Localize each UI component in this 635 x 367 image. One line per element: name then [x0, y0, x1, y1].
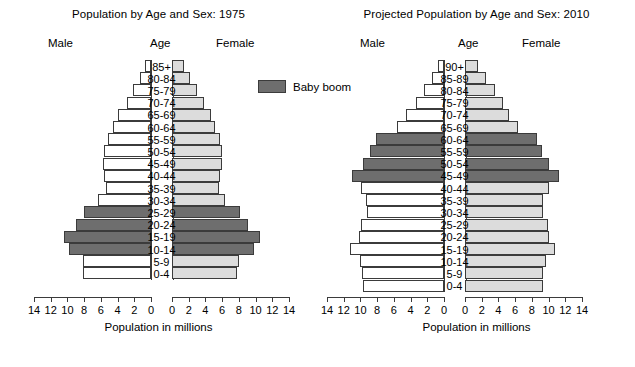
tick-male-0-10	[67, 297, 68, 302]
age-label-50-54: 50-54	[141, 146, 182, 158]
ticklabel-female-1-4: 4	[495, 304, 501, 316]
bar-female-20-24	[172, 219, 248, 231]
ticklabel-male-0-12: 12	[45, 304, 57, 316]
tick-female-0-4	[205, 297, 206, 302]
bar-female-10-14	[172, 243, 254, 255]
bar-male-40-44	[361, 182, 444, 194]
heading-female-2010: Female	[522, 37, 560, 49]
age-label-30-34: 30-34	[141, 195, 182, 207]
ticklabel-female-1-6: 6	[512, 304, 518, 316]
bar-male-35-39	[366, 194, 444, 206]
bar-male-15-19	[350, 243, 444, 255]
age-label-30-34: 30-34	[434, 207, 475, 219]
ticklabel-female-0-4: 4	[202, 304, 208, 316]
bar-male-10-14	[69, 243, 151, 255]
ticklabel-female-0-0: 0	[169, 304, 175, 316]
ticklabel-male-1-10: 10	[354, 304, 366, 316]
age-label-55-59: 55-59	[434, 146, 475, 158]
age-label-75-79: 75-79	[434, 97, 475, 109]
age-label-85plus: 85+	[141, 61, 182, 73]
ticklabel-male-0-6: 6	[98, 304, 104, 316]
tick-male-1-6	[394, 297, 395, 302]
tick-female-0-12	[272, 297, 273, 302]
age-label-25-29: 25-29	[141, 207, 182, 219]
tick-female-1-4	[498, 297, 499, 302]
ticklabel-female-1-8: 8	[529, 304, 535, 316]
bar-male-25-29	[361, 219, 445, 231]
bar-male-30-34	[367, 206, 444, 218]
tick-male-0-12	[51, 297, 52, 302]
age-label-50-54: 50-54	[434, 158, 475, 170]
chart-title-2010: Projected Population by Age and Sex: 201…	[318, 8, 635, 20]
tick-male-0-8	[84, 297, 85, 302]
ticklabel-male-1-8: 8	[374, 304, 380, 316]
tick-female-0-14	[289, 297, 290, 302]
bar-male-20-24	[76, 219, 151, 231]
heading-female-1975: Female	[216, 37, 254, 49]
ticklabel-male-0-0: 0	[148, 304, 154, 316]
age-label-60-64: 60-64	[141, 122, 182, 134]
ticklabel-female-1-12: 12	[559, 304, 571, 316]
bar-female-0-4	[465, 280, 543, 292]
ticklabel-male-1-12: 12	[338, 304, 350, 316]
age-label-80-84: 80-84	[434, 85, 475, 97]
ticklabel-female-1-2: 2	[479, 304, 485, 316]
bar-male-20-24	[359, 231, 444, 243]
age-label-20-24: 20-24	[141, 219, 182, 231]
bar-male-5-9	[362, 267, 444, 279]
age-label-60-64: 60-64	[434, 134, 475, 146]
bar-female-10-14	[465, 255, 546, 267]
age-label-75-79: 75-79	[141, 85, 182, 97]
bar-female-55-59	[465, 145, 542, 157]
bar-male-45-49	[352, 170, 444, 182]
age-label-80-84: 80-84	[141, 73, 182, 85]
tick-female-1-12	[565, 297, 566, 302]
tick-male-1-4	[411, 297, 412, 302]
heading-male-2010: Male	[360, 37, 385, 49]
tick-female-1-10	[549, 297, 550, 302]
baby-boom-swatch	[258, 80, 286, 93]
column-headings-2010: Male Age Female	[318, 37, 635, 53]
tick-male-0-14	[34, 297, 35, 302]
tick-male-1-14	[327, 297, 328, 302]
tick-male-0-2	[134, 297, 135, 302]
bar-male-10-14	[360, 255, 444, 267]
age-label-15-19: 15-19	[141, 231, 182, 243]
tick-male-0-6	[101, 297, 102, 302]
bar-male-50-54	[363, 158, 444, 170]
tick-female-0-10	[256, 297, 257, 302]
age-label-15-19: 15-19	[434, 244, 475, 256]
ticklabel-female-1-0: 0	[462, 304, 468, 316]
bar-female-30-34	[465, 206, 543, 218]
bar-female-25-29	[465, 219, 548, 231]
age-label-90plus: 90+	[434, 61, 475, 73]
panel-1975: Population by Age and Sex: 1975 Male Age…	[0, 0, 317, 367]
ticklabel-female-0-12: 12	[266, 304, 278, 316]
tick-male-1-10	[360, 297, 361, 302]
tick-male-1-0	[444, 297, 445, 302]
panel-2010: Projected Population by Age and Sex: 201…	[318, 0, 635, 367]
ticklabel-male-1-2: 2	[424, 304, 430, 316]
heading-male-1975: Male	[48, 37, 73, 49]
bar-female-15-19	[172, 231, 260, 243]
ticklabel-female-0-6: 6	[219, 304, 225, 316]
ticklabel-male-1-14: 14	[321, 304, 333, 316]
ticklabel-male-1-4: 4	[408, 304, 414, 316]
axis-title-0: Population in millions	[0, 321, 317, 333]
bar-female-50-54	[465, 158, 549, 170]
tick-female-0-6	[222, 297, 223, 302]
ticklabel-male-0-10: 10	[61, 304, 73, 316]
age-label-40-44: 40-44	[434, 183, 475, 195]
legend: Baby boom	[258, 80, 351, 93]
ticklabel-male-0-4: 4	[115, 304, 121, 316]
bar-male-15-19	[64, 231, 151, 243]
column-headings-1975: Male Age Female	[0, 37, 317, 53]
age-label-20-24: 20-24	[434, 231, 475, 243]
tick-male-0-0	[151, 297, 152, 302]
age-label-55-59: 55-59	[141, 134, 182, 146]
age-label-35-39: 35-39	[141, 183, 182, 195]
tick-male-0-4	[118, 297, 119, 302]
ticklabel-female-1-14: 14	[576, 304, 588, 316]
age-label-35-39: 35-39	[434, 195, 475, 207]
bar-female-15-19	[465, 243, 555, 255]
